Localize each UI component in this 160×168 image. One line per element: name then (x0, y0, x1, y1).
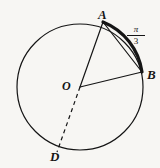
arc-measure-fraction: π 3 (127, 25, 145, 46)
point-label-b: B (147, 68, 156, 81)
radius-od-dashed-segment (57, 87, 80, 152)
geometry-figure: A B O D π 3 (0, 0, 160, 168)
arc-measure-denominator: 3 (127, 36, 145, 46)
radius-ob-segment (80, 72, 142, 87)
point-label-a: A (98, 8, 107, 21)
point-label-d: D (50, 150, 59, 163)
point-label-o: O (62, 80, 71, 92)
arc-measure-numerator: π (127, 25, 145, 35)
radius-oa-segment (80, 22, 103, 87)
